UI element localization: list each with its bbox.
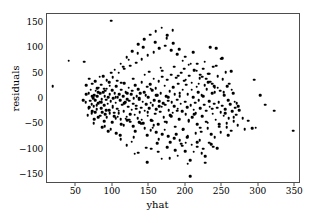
- scatter-point: [123, 82, 126, 85]
- scatter-point: [179, 92, 182, 95]
- y-axis-tick-labels: 150100500−50−100−150: [0, 13, 43, 183]
- scatter-point: [168, 157, 171, 160]
- scatter-point: [177, 74, 180, 77]
- scatter-point: [181, 89, 184, 92]
- scatter-point: [94, 80, 97, 83]
- scatter-point: [154, 41, 157, 44]
- scatter-point: [195, 132, 198, 135]
- scatter-point: [85, 84, 88, 87]
- scatter-point: [127, 58, 130, 61]
- scatter-point: [145, 103, 148, 106]
- scatter-point: [146, 114, 149, 117]
- scatter-point: [52, 85, 55, 88]
- scatter-point: [160, 157, 163, 160]
- scatter-point: [131, 50, 134, 53]
- scatter-point: [133, 152, 136, 155]
- scatter-point: [198, 99, 201, 102]
- scatter-point: [109, 128, 112, 131]
- scatter-point: [202, 147, 205, 150]
- scatter-point: [222, 114, 225, 117]
- scatter-point: [163, 129, 166, 132]
- scatter-point: [105, 109, 108, 112]
- scatter-point: [119, 134, 122, 137]
- scatter-point: [114, 96, 117, 99]
- scatter-point: [137, 151, 140, 154]
- scatter-point: [157, 80, 160, 83]
- scatter-point: [88, 106, 91, 109]
- scatter-point: [184, 113, 187, 116]
- scatter-point: [211, 112, 214, 115]
- scatter-point: [231, 110, 234, 113]
- scatter-point: [120, 82, 123, 85]
- scatter-point: [168, 90, 171, 93]
- x-tick-label: 200: [176, 186, 193, 196]
- scatter-point: [108, 112, 111, 115]
- scatter-point: [251, 127, 254, 130]
- scatter-point: [264, 103, 267, 106]
- scatter-point: [210, 133, 213, 136]
- scatter-point: [230, 70, 233, 73]
- scatter-point: [216, 87, 219, 90]
- scatter-point: [166, 78, 169, 81]
- scatter-point: [203, 84, 206, 87]
- scatter-point: [167, 96, 170, 99]
- scatter-point: [177, 83, 180, 86]
- scatter-point: [140, 106, 143, 109]
- scatter-point: [106, 116, 109, 119]
- scatter-point: [205, 120, 208, 123]
- scatter-point: [136, 52, 139, 55]
- scatter-point: [150, 147, 153, 150]
- scatter-point: [247, 119, 250, 122]
- scatter-point: [171, 29, 174, 32]
- scatter-point: [108, 85, 111, 88]
- scatter-point: [187, 93, 190, 96]
- scatter-point: [85, 93, 88, 96]
- scatter-point: [215, 47, 218, 50]
- scatter-point: [158, 100, 161, 103]
- scatter-point: [123, 102, 126, 105]
- scatter-point: [273, 109, 276, 112]
- scatter-point: [216, 106, 219, 109]
- scatter-point: [192, 108, 195, 111]
- y-tick-label: 100: [26, 42, 43, 52]
- scatter-point: [229, 103, 232, 106]
- scatter-point: [157, 150, 160, 153]
- scatter-point: [97, 91, 100, 94]
- x-axis-tick-labels: 50100150200250300350: [0, 186, 315, 198]
- scatter-point: [130, 108, 133, 111]
- scatter-point: [114, 92, 117, 95]
- scatter-point: [217, 101, 220, 104]
- scatter-point: [203, 103, 206, 106]
- scatter-point: [236, 124, 239, 127]
- scatter-point: [138, 97, 141, 100]
- scatter-point: [111, 76, 114, 79]
- scatter-point: [173, 105, 176, 108]
- scatter-point: [156, 142, 159, 145]
- scatter-point: [180, 71, 183, 74]
- scatter-point: [127, 87, 130, 90]
- scatter-point: [233, 116, 236, 119]
- scatter-point: [192, 150, 195, 153]
- scatter-point: [158, 105, 161, 108]
- scatter-point: [134, 84, 137, 87]
- scatter-point: [219, 131, 222, 134]
- scatter-point: [216, 147, 219, 150]
- x-tick-label: 100: [103, 186, 120, 196]
- scatter-point: [224, 108, 227, 111]
- scatter-point: [89, 99, 92, 102]
- scatter-point: [203, 60, 206, 63]
- scatter-point: [196, 123, 199, 126]
- scatter-point: [136, 117, 139, 120]
- scatter-point: [154, 30, 157, 33]
- scatter-point: [254, 127, 257, 130]
- scatter-point: [227, 99, 230, 102]
- scatter-point: [152, 51, 155, 54]
- scatter-point: [91, 83, 94, 86]
- scatter-point: [93, 118, 96, 121]
- scatter-point: [91, 95, 94, 98]
- scatter-point: [200, 152, 203, 155]
- scatter-point: [102, 75, 105, 78]
- scatter-point: [189, 175, 192, 178]
- scatter-point: [192, 51, 195, 54]
- scatter-point: [155, 108, 158, 111]
